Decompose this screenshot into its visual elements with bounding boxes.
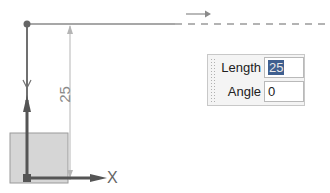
dimension-value-label[interactable]: 25 <box>56 83 73 107</box>
angle-label: Angle <box>218 84 264 99</box>
x-axis-label: X <box>107 169 118 187</box>
length-value-selected: 25 <box>268 60 284 75</box>
angle-input[interactable]: 0 <box>264 81 304 102</box>
plane-rectangle <box>10 133 68 183</box>
length-label: Length <box>218 60 264 75</box>
angle-row: Angle 0 <box>218 80 304 103</box>
origin-marker <box>23 174 31 182</box>
length-row: Length 25 <box>218 56 304 79</box>
angle-value: 0 <box>268 84 275 99</box>
drag-handle[interactable] <box>210 58 216 102</box>
length-angle-input-dialog: Length 25 Angle 0 <box>207 54 305 106</box>
direction-arrow-icon <box>186 11 211 18</box>
length-input[interactable]: 25 <box>264 57 304 78</box>
sketch-point[interactable] <box>24 21 31 28</box>
